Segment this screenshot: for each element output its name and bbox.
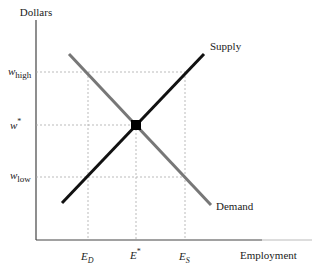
w-low-label: wlow — [10, 169, 31, 184]
y-axis-label: Dollars — [20, 6, 52, 18]
w-star-label: w* — [10, 117, 21, 131]
e-s-label: ES — [178, 250, 190, 265]
labor-market-diagram: Dollars Supply Demand whigh w* wlow ED E… — [0, 0, 320, 269]
w-high-label: whigh — [8, 65, 32, 80]
demand-label: Demand — [216, 200, 254, 212]
e-star-label: E* — [129, 247, 141, 261]
supply-label: Supply — [210, 40, 242, 52]
equilibrium-point — [131, 120, 141, 130]
e-d-label: ED — [80, 250, 94, 265]
x-axis-label: Employment — [240, 249, 297, 261]
